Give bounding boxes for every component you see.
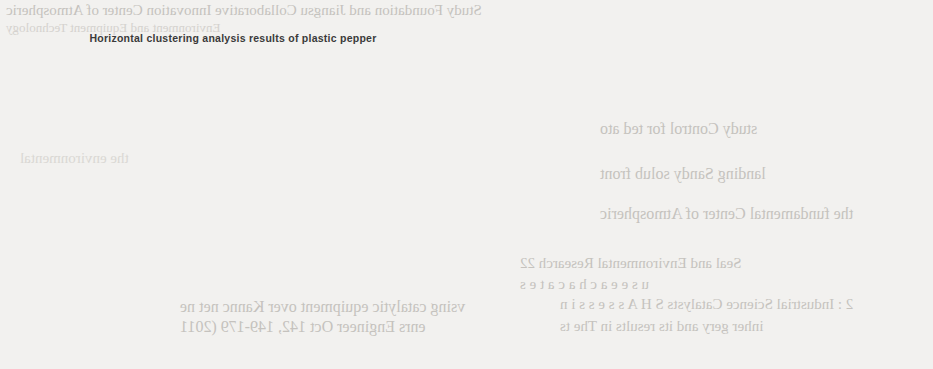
plot-canvas-right xyxy=(466,0,933,369)
plot-canvas-left xyxy=(0,0,466,369)
chart-panel-right xyxy=(466,0,933,369)
chart-panel-left: Horizontal clustering analysis results o… xyxy=(0,0,466,369)
